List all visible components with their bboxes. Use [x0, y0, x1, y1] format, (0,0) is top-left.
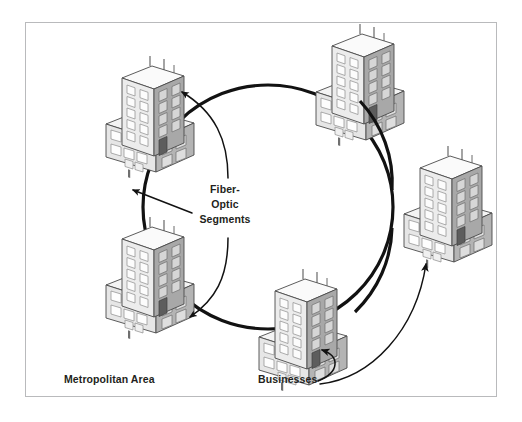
- fiber-optic-label-line-2: Optic: [194, 197, 256, 212]
- business-building-upper-left[interactable]: [106, 56, 194, 178]
- business-building-lower-left[interactable]: [106, 217, 194, 339]
- metropolitan-area-label: Metropolitan Area: [64, 373, 155, 386]
- screenshot-root: Metropolitan Area Businesses Fiber- Opti…: [0, 0, 522, 422]
- business-building-right[interactable]: [404, 146, 492, 268]
- fiber-optic-label-line-3: Segments: [194, 212, 256, 227]
- fiber-optic-segments-label: Fiber- Optic Segments: [194, 182, 256, 227]
- fiber-optic-label-line-1: Fiber-: [194, 182, 256, 197]
- network-diagram-canvas: [0, 0, 522, 422]
- business-building-top[interactable]: [316, 24, 404, 146]
- businesses-label: Businesses: [258, 373, 317, 386]
- buildings-group: [106, 24, 492, 391]
